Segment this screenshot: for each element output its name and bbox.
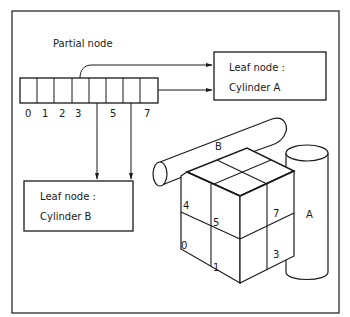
- index-label-7: 7: [144, 108, 150, 119]
- index-label-1: 1: [42, 108, 48, 119]
- pointer-cell3-to-leaf-a: [80, 65, 212, 78]
- octree-diagram: Partial node 0 1 2 3 5 7 Leaf node : Cyl…: [0, 0, 350, 317]
- octant-label-1: 1: [213, 262, 219, 273]
- partial-node-title: Partial node: [53, 38, 113, 49]
- leaf-node-b-box: Leaf node : Cylinder B: [24, 181, 133, 231]
- index-label-3: 3: [75, 108, 81, 119]
- octant-label-7: 7: [273, 208, 279, 219]
- cylinder-a-label: A: [306, 209, 313, 220]
- partial-node-array: [20, 78, 158, 103]
- octant-label-0: 0: [181, 240, 187, 251]
- octant-label-5: 5: [213, 217, 219, 228]
- octant-label-4: 4: [183, 200, 189, 211]
- leaf-node-a-box: Leaf node : Cylinder A: [214, 52, 326, 100]
- leaf-a-line2: Cylinder A: [229, 82, 281, 93]
- index-label-2: 2: [59, 108, 65, 119]
- octant-label-3: 3: [273, 249, 279, 260]
- index-label-5: 5: [110, 108, 116, 119]
- leaf-b-line2: Cylinder B: [40, 211, 92, 222]
- leaf-b-line1: Leaf node :: [40, 191, 96, 202]
- index-label-0: 0: [25, 108, 31, 119]
- leaf-a-line1: Leaf node :: [229, 62, 285, 73]
- cylinder-b-label: B: [215, 141, 222, 152]
